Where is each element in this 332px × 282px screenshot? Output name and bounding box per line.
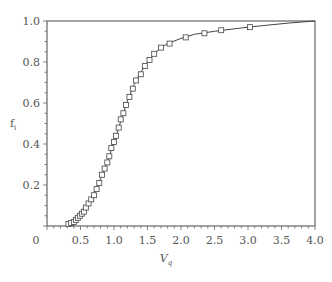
data-point-square — [91, 193, 96, 198]
y-tick-label: 0.6 — [23, 97, 41, 110]
data-point-square — [121, 111, 126, 116]
data-point-square — [118, 117, 123, 122]
x-tick-label: 0 — [33, 234, 40, 247]
data-point-square — [127, 94, 132, 99]
data-point-square — [152, 51, 157, 56]
data-point-square — [142, 64, 147, 69]
data-point-square — [124, 103, 129, 108]
x-axis-title: Vq — [160, 252, 173, 267]
chart: 00.51.01.52.02.53.03.54.0 0.20.40.60.81.… — [0, 0, 332, 282]
data-point-square — [102, 166, 107, 171]
data-point-square — [219, 28, 224, 33]
y-axis-title: fi — [10, 117, 17, 132]
data-point-square — [134, 78, 139, 83]
plot-frame — [47, 21, 315, 226]
x-tick-label: 2.5 — [206, 234, 224, 247]
data-point-square — [248, 25, 253, 30]
data-point-square — [109, 146, 114, 151]
data-point-square — [99, 172, 104, 177]
x-tick-label: 3.5 — [273, 234, 291, 247]
x-tick-label: 2.0 — [172, 234, 190, 247]
data-point-square — [130, 86, 135, 91]
data-point-square — [147, 57, 152, 62]
data-point-square — [94, 187, 99, 192]
data-point-square — [158, 45, 163, 50]
data-point-square — [107, 154, 112, 159]
x-tick-label: 1.5 — [139, 234, 157, 247]
x-tick-label: 1.0 — [105, 234, 123, 247]
x-tick-label: 0.5 — [72, 234, 90, 247]
data-point-square — [112, 139, 117, 144]
data-point-square — [114, 133, 119, 138]
data-point-square — [138, 72, 143, 77]
plot-area — [66, 21, 315, 226]
y-tick-label: 1.0 — [23, 15, 41, 28]
data-point-square — [97, 180, 102, 185]
data-point-square — [202, 31, 207, 36]
y-tick-label: 0.4 — [23, 138, 41, 151]
y-tick-label: 0.8 — [23, 56, 41, 69]
x-tick-label: 4.0 — [306, 234, 324, 247]
y-tick-label: 0.2 — [23, 179, 41, 192]
x-tick-label: 3.0 — [239, 234, 257, 247]
data-point-square — [105, 160, 110, 165]
data-point-square — [167, 41, 172, 46]
fitted-curve — [67, 21, 315, 225]
data-point-square — [183, 35, 188, 40]
data-point-square — [116, 125, 121, 130]
y-axis: 0.20.40.60.81.0 — [23, 15, 48, 226]
x-axis: 00.51.01.52.02.53.03.54.0 — [33, 226, 324, 247]
